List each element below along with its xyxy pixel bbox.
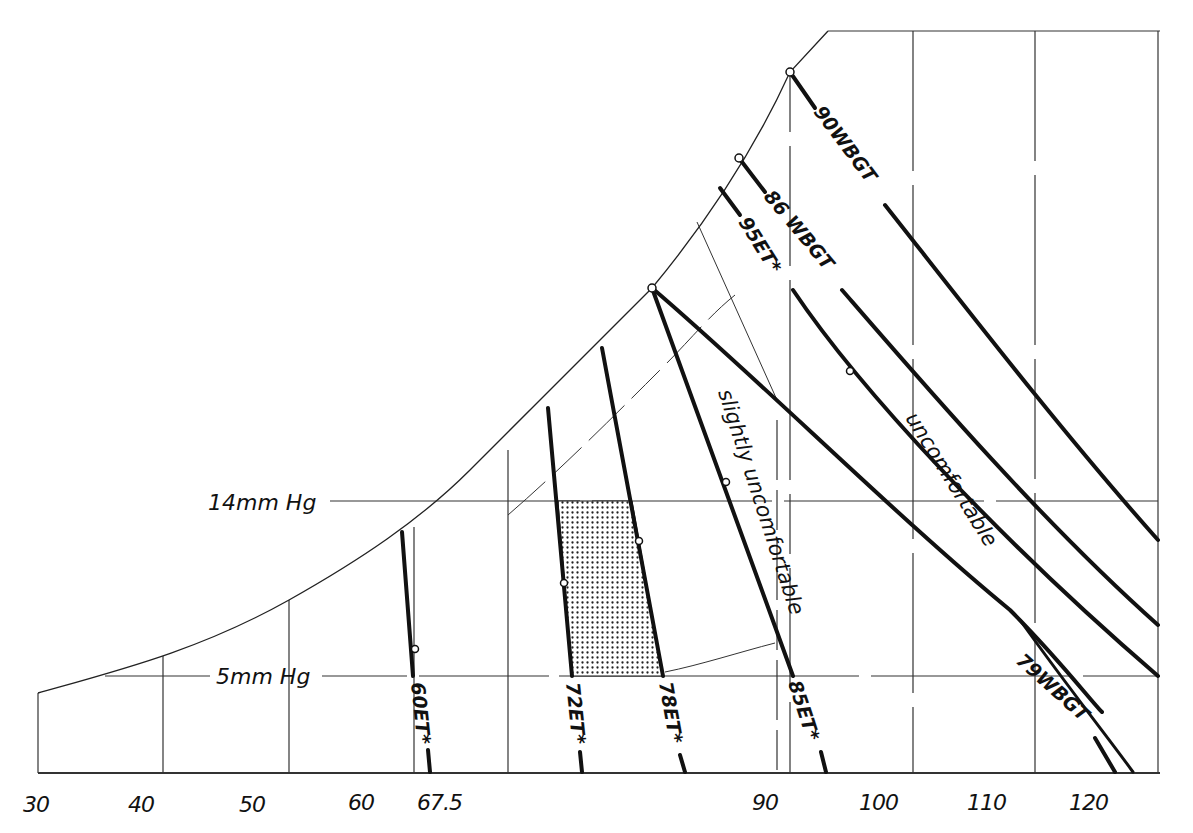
marker-72et-mid	[561, 580, 568, 587]
label-78et: 78ET*	[655, 680, 687, 745]
label-14mmhg: 14mm Hg	[208, 490, 316, 515]
psychrometric-comfort-chart: 14mm Hg 5mm Hg 60ET* 72ET* 78ET* 85ET* 9…	[0, 0, 1193, 833]
marker-85et	[648, 284, 656, 292]
x-tick-labels: 30 40 50 60 67.5 90 100 110 120	[23, 790, 1108, 817]
tick-110: 110	[967, 790, 1006, 815]
wbgt86-line	[842, 290, 1158, 625]
tick-120: 120	[1069, 790, 1108, 815]
label-72et: 72ET*	[562, 681, 590, 745]
tick-30: 30	[23, 792, 49, 817]
wbgt90-line-top	[790, 72, 815, 108]
tick-90: 90	[752, 790, 778, 815]
label-5mmhg: 5mm Hg	[216, 664, 310, 689]
tick-100: 100	[859, 790, 898, 815]
saturation-curve	[38, 31, 828, 693]
wbgt86-line-top	[739, 158, 765, 192]
et60-line-bottom	[428, 750, 430, 772]
dashed-curve	[508, 295, 735, 515]
tick-50: 50	[239, 792, 265, 817]
marker-95et-mid	[847, 368, 854, 375]
label-95et: 95ET*	[735, 212, 787, 277]
marker-85et-mid	[723, 479, 730, 486]
marker-90wbgt	[786, 68, 794, 76]
label-90wbgt: 90WBGT	[810, 101, 883, 188]
marker-78et-mid	[636, 538, 643, 545]
et95-line	[793, 290, 1158, 676]
et95-line-top	[720, 188, 740, 215]
et60-line	[402, 532, 413, 676]
marker-86wbgt	[735, 154, 743, 162]
shallow-line	[665, 643, 775, 672]
marker-60et-mid	[412, 646, 419, 653]
tick-67-5: 67.5	[417, 790, 462, 815]
tick-60: 60	[348, 790, 374, 815]
et78-line-bottom	[680, 755, 685, 772]
label-60et: 60ET*	[407, 681, 435, 745]
et85-line-bottom	[821, 752, 826, 772]
tick-40: 40	[128, 792, 154, 817]
et72-line-bottom	[580, 752, 582, 772]
